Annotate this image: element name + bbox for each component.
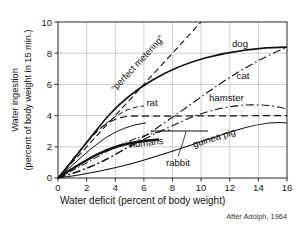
y-tick-labels: 0 2 4 6 8 10 xyxy=(41,17,52,184)
curve-label-rat: rat xyxy=(146,97,158,108)
x-tick-5: 10 xyxy=(196,182,207,193)
curve-label-dog: dog xyxy=(232,38,248,49)
x-tick-6: 12 xyxy=(225,182,236,193)
chart-credit: After Adolph, 1964 xyxy=(226,212,287,221)
y-axis-title-line1: Water ingestion xyxy=(10,68,20,132)
x-tick-0: 0 xyxy=(55,182,60,193)
y-tick-1: 2 xyxy=(47,141,52,152)
x-tick-labels: 0 2 4 6 8 10 12 14 16 xyxy=(55,182,292,193)
x-tick-2: 4 xyxy=(113,182,118,193)
x-tick-1: 2 xyxy=(84,182,89,193)
y-tick-0: 0 xyxy=(47,172,52,183)
x-tick-4: 8 xyxy=(170,182,175,193)
curve-label-rabbit: rabbit xyxy=(166,157,190,168)
curve-label-cat: cat xyxy=(237,70,250,81)
y-tick-2: 4 xyxy=(47,110,52,121)
x-tick-7: 14 xyxy=(253,182,264,193)
curve-label-hamster: hamster xyxy=(209,92,244,103)
x-axis-title: Water deficit (percent of body weight) xyxy=(60,195,225,206)
x-tick-8: 16 xyxy=(282,182,293,193)
y-axis-title-line2: (percent of body weight in 15 min.) xyxy=(23,30,33,171)
x-tick-3: 6 xyxy=(141,182,146,193)
y-tick-3: 6 xyxy=(47,79,52,90)
chart-svg: “perfect metering” dog cat rat hamster h… xyxy=(0,0,304,230)
chart-figure: “perfect metering” dog cat rat hamster h… xyxy=(0,0,304,230)
y-tick-5: 10 xyxy=(41,17,52,28)
y-tick-4: 8 xyxy=(47,48,52,59)
